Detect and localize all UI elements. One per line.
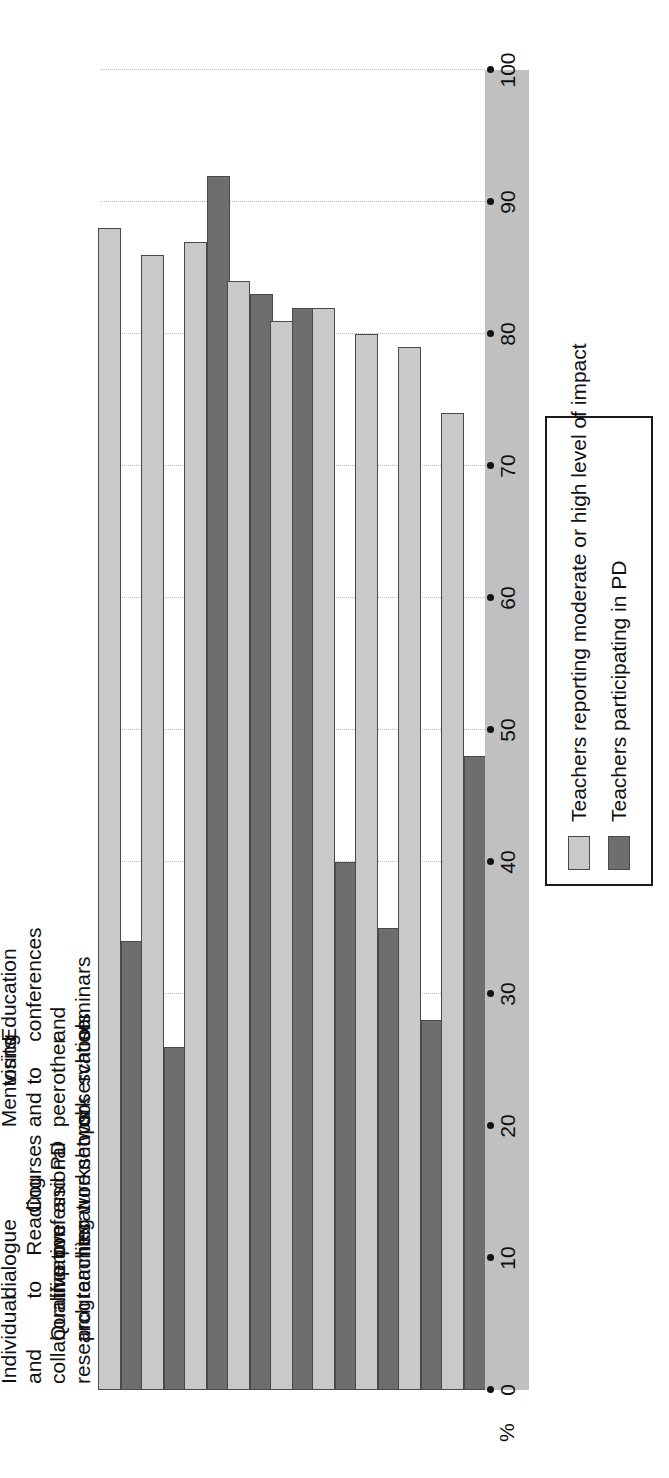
tick-marker	[487, 1255, 494, 1262]
category-label-line: to improve	[22, 1262, 72, 1299]
tick-label: 30	[497, 964, 518, 1024]
category-label: Educationconferencesand seminars	[0, 1005, 96, 1048]
bar-group	[271, 70, 314, 1390]
tick-marker	[487, 991, 494, 998]
category-label-line: dialogue	[0, 1262, 22, 1299]
tick-label: 90	[497, 172, 518, 232]
category-label-line: Mentoring	[0, 1091, 22, 1128]
category-axis-labels: Individual andcollaborativeresearchQuali…	[0, 70, 100, 1390]
bar-impact	[270, 321, 293, 1390]
legend-item-participating: Teachers participating in PD	[599, 432, 639, 870]
rotated-figure-wrapper: Individual andcollaborativeresearchQuali…	[0, 0, 669, 1478]
category-label-line: other schools	[46, 1048, 96, 1085]
category-label-line: Individual and	[0, 1347, 46, 1384]
category-label-line: research	[71, 1347, 96, 1384]
value-axis-unit-label: %	[495, 1423, 519, 1442]
legend-item-impact: Teachers reporting moderate or high leve…	[559, 432, 599, 870]
category-label-line: PD	[46, 1133, 71, 1170]
category-label-line: programmes	[71, 1304, 96, 1341]
category-label-line: workshops	[71, 1176, 96, 1213]
bar-impact	[441, 413, 464, 1390]
bar-group	[314, 70, 357, 1390]
bar-impact	[98, 228, 121, 1390]
bar-group	[399, 70, 442, 1390]
category-label: Readingprofessionalliterature	[22, 1219, 96, 1262]
tick-label: 60	[497, 568, 518, 628]
legend-label-participating: Teachers participating in PD	[607, 561, 631, 822]
tick-marker	[487, 859, 494, 866]
category-label: Qualificationprogrammes	[46, 1304, 96, 1347]
tick-label: 0	[497, 1360, 518, 1420]
category-label-line: Education	[0, 1005, 22, 1042]
category-label: Individual andcollaborativeresearch	[0, 1347, 96, 1390]
bar-impact	[227, 281, 250, 1390]
category-label: PDnetwork	[46, 1133, 96, 1176]
tick-label: 70	[497, 436, 518, 496]
tick-marker	[487, 463, 494, 470]
tick-label: 50	[497, 700, 518, 760]
category-label-line: visits to	[0, 1048, 46, 1085]
tick-marker	[487, 67, 494, 74]
tick-label: 10	[497, 1228, 518, 1288]
bar-impact	[141, 255, 164, 1390]
bar-group	[357, 70, 400, 1390]
category-label-line: literature	[71, 1219, 96, 1256]
bar-impact	[355, 334, 378, 1390]
legend-label-impact: Teachers reporting moderate or high leve…	[567, 343, 591, 822]
category-label-line: collaborative	[46, 1347, 71, 1384]
category-label: Mentoringand peerobservation	[0, 1091, 96, 1134]
tick-marker	[487, 727, 494, 734]
category-label-line: observation	[71, 1091, 96, 1128]
chart-legend: Teachers reporting moderate or high leve…	[545, 416, 653, 886]
category-label: Observationvisits toother schools	[0, 1048, 96, 1091]
bar-group	[143, 70, 186, 1390]
category-label-line: and peer	[22, 1091, 72, 1128]
plot-area	[100, 70, 485, 1390]
legend-swatch-light-icon	[568, 836, 590, 870]
category-label-line: network	[71, 1133, 96, 1170]
category-label-line: professional	[46, 1219, 71, 1256]
bar-group	[442, 70, 485, 1390]
tick-label: 40	[497, 832, 518, 892]
category-label-line: Reading	[22, 1219, 47, 1256]
tick-marker	[487, 595, 494, 602]
category-label-line: Qualification	[46, 1304, 71, 1341]
category-label-line: conferences	[22, 1005, 47, 1042]
chart-page: Individual andcollaborativeresearchQuali…	[0, 0, 669, 1478]
bar-group	[100, 70, 143, 1390]
tick-marker	[487, 1387, 494, 1394]
legend-swatch-dark-icon	[608, 836, 630, 870]
category-label-line: and	[46, 1176, 71, 1213]
bar-impact	[312, 308, 335, 1390]
tick-marker	[487, 1123, 494, 1130]
bar-chart-figure: Individual andcollaborativeresearchQuali…	[0, 0, 669, 1478]
category-label: Coursesandworkshops	[22, 1176, 96, 1219]
bar-impact	[398, 347, 421, 1390]
bar-participating	[464, 756, 487, 1390]
tick-marker	[487, 199, 494, 206]
category-label-line: teaching	[71, 1262, 96, 1299]
bar-impact	[184, 242, 207, 1390]
tick-label: 100	[497, 40, 518, 100]
bar-group	[228, 70, 271, 1390]
tick-label: 20	[497, 1096, 518, 1156]
category-label-line: Courses	[22, 1176, 47, 1213]
bar-group	[186, 70, 229, 1390]
tick-marker	[487, 331, 494, 338]
tick-label: 80	[497, 304, 518, 364]
value-axis-band: 1009080706050403020100	[485, 70, 529, 1390]
category-label: Informaldialogueto improveteaching	[0, 1262, 96, 1305]
category-label-line: and seminars	[46, 1005, 96, 1042]
